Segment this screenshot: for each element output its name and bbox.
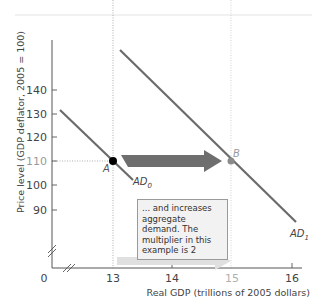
ad0-label: AD0	[132, 176, 153, 190]
x-tick-14: 14	[165, 272, 179, 285]
x-tick-15: 15	[225, 272, 239, 285]
x-tick-16: 16	[285, 272, 299, 285]
y-tick-120: 120	[26, 131, 47, 144]
y-tick-130: 130	[26, 108, 47, 121]
point-a-label: A	[102, 163, 110, 174]
multiplier-callout: ... and increases aggregate demand. The …	[137, 199, 228, 260]
shift-arrow	[121, 150, 222, 172]
point-a-marker	[109, 157, 117, 165]
ad1-label: AD1	[289, 228, 309, 242]
y-axis-title: Price level (GDP deflator, 2005 = 100)	[15, 31, 26, 213]
y-tick-100: 100	[26, 179, 47, 192]
y-ticks	[52, 90, 57, 210]
ad1-curve	[120, 50, 296, 222]
y-tick-90: 90	[33, 204, 47, 217]
x-tick-13: 13	[106, 272, 120, 285]
x-axis-title: Real GDP (trillions of 2005 dollars)	[147, 287, 311, 298]
x-tick-origin: 0	[41, 272, 48, 285]
point-b-label: B	[233, 148, 240, 159]
ad0-curve	[60, 110, 133, 180]
y-tick-110: 110	[26, 155, 47, 168]
y-tick-140: 140	[26, 84, 47, 97]
